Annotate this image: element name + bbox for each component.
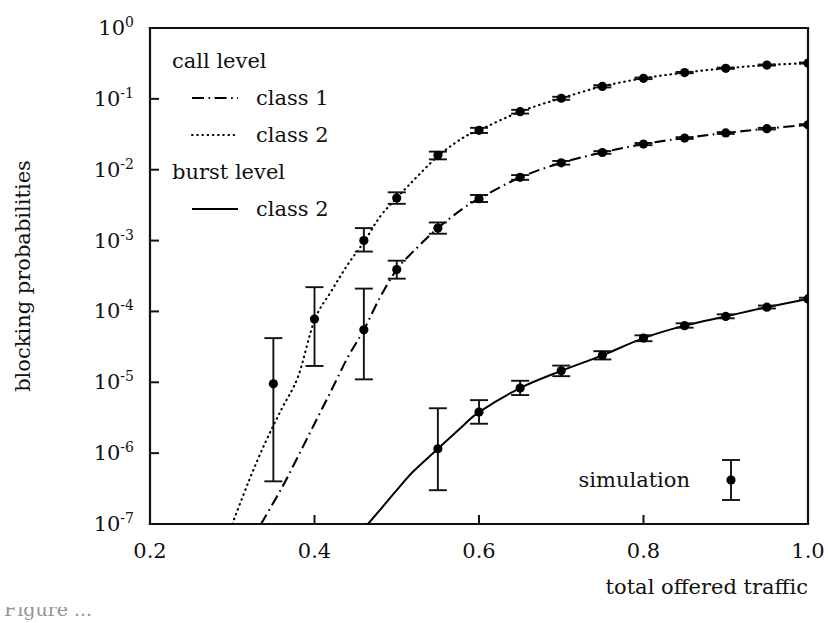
data-point-marker — [474, 194, 483, 203]
series-points-dotted — [264, 58, 817, 481]
simulation-key: simulation — [579, 460, 741, 500]
data-point-marker — [762, 60, 771, 69]
data-points-group — [264, 58, 817, 490]
legend-entry-label: class 1 — [256, 86, 329, 110]
data-point-marker — [516, 107, 525, 116]
y-tick-label: 10-2 — [94, 156, 134, 182]
data-point-marker — [433, 151, 442, 160]
data-point-marker — [598, 148, 607, 157]
data-point-marker — [721, 128, 730, 137]
data-point-marker — [639, 74, 648, 83]
y-tick-label: 100 — [98, 14, 134, 40]
data-point-marker — [433, 444, 442, 453]
x-tick-label: 0.4 — [298, 539, 331, 563]
caption-strip: Figure ... — [0, 607, 829, 623]
y-tick-label: 10-6 — [94, 439, 134, 465]
legend: call levelclass 1class 2burst levelclass… — [172, 49, 329, 221]
x-tick-label: 0.8 — [627, 539, 660, 563]
figure-caption: Figure ... — [4, 607, 92, 620]
data-point-marker — [598, 82, 607, 91]
data-point-marker — [721, 64, 730, 73]
data-point-marker — [516, 383, 525, 392]
series-curve-dashdot — [261, 125, 808, 524]
data-point-marker — [433, 223, 442, 232]
simulation-key-marker — [726, 475, 735, 484]
x-axis-ticks: 0.20.40.60.81.0 — [133, 515, 824, 563]
x-tick-label: 0.2 — [133, 539, 166, 563]
data-point-marker — [359, 325, 368, 334]
data-point-marker — [598, 351, 607, 360]
data-point-marker — [557, 366, 566, 375]
data-point-marker — [680, 133, 689, 142]
y-tick-label: 10-4 — [94, 297, 134, 323]
legend-entry-label: class 2 — [256, 123, 329, 147]
simulation-key-label: simulation — [579, 468, 691, 492]
data-point-marker — [639, 334, 648, 343]
legend-group-heading: call level — [172, 49, 267, 73]
data-point-marker — [392, 265, 401, 274]
data-point-marker — [557, 158, 566, 167]
legend-group-heading: burst level — [172, 160, 285, 184]
data-point-marker — [680, 321, 689, 330]
data-point-marker — [359, 236, 368, 245]
data-point-marker — [680, 68, 689, 77]
data-point-marker — [269, 379, 278, 388]
x-axis-title: total offered traffic — [606, 575, 808, 599]
y-tick-label: 10-3 — [94, 227, 134, 253]
y-axis-title: blocking probabilities — [11, 160, 35, 392]
x-tick-label: 0.6 — [462, 539, 495, 563]
data-point-marker — [310, 314, 319, 323]
data-point-marker — [474, 126, 483, 135]
data-point-marker — [516, 173, 525, 182]
y-tick-label: 10-5 — [94, 368, 134, 394]
data-point-marker — [392, 193, 401, 202]
figure-container: 10010-110-210-310-410-510-610-70.20.40.6… — [0, 0, 829, 623]
data-point-marker — [639, 139, 648, 148]
series-points-dashdot — [355, 120, 817, 379]
data-point-marker — [803, 120, 812, 129]
axes-frame — [150, 28, 808, 524]
y-tick-label: 10-1 — [94, 85, 134, 111]
blocking-probabilities-chart: 10010-110-210-310-410-510-610-70.20.40.6… — [0, 0, 829, 623]
data-point-marker — [721, 312, 730, 321]
series-points-solid — [429, 294, 817, 490]
data-point-marker — [803, 58, 812, 67]
legend-entry-label: class 2 — [256, 197, 329, 221]
data-point-marker — [762, 303, 771, 312]
x-tick-label: 1.0 — [791, 539, 824, 563]
data-point-marker — [557, 94, 566, 103]
data-point-marker — [803, 294, 812, 303]
y-tick-label: 10-7 — [94, 510, 134, 536]
data-point-marker — [474, 407, 483, 416]
data-point-marker — [762, 124, 771, 133]
